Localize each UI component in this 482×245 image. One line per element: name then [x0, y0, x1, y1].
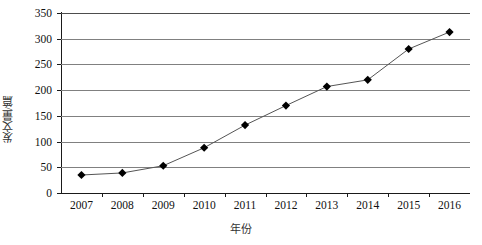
y-tick-label: 50: [41, 161, 53, 173]
y-axis-title: 发文量/篇: [0, 60, 18, 180]
y-tick-label: 0: [46, 187, 52, 199]
x-tick-mark: [184, 193, 185, 197]
x-tick-label: 2008: [111, 199, 134, 211]
data-point-marker: [159, 162, 167, 170]
x-tick-label: 2012: [274, 199, 297, 211]
y-tick-label: 300: [35, 33, 52, 45]
x-tick-label: 2007: [70, 199, 93, 211]
x-tick-label: 2010: [193, 199, 216, 211]
x-axis-title: 年份: [0, 220, 482, 236]
series-line: [81, 32, 449, 175]
x-tick-mark: [225, 193, 226, 197]
x-tick-label: 2009: [152, 199, 175, 211]
y-tick-mark: [57, 193, 61, 194]
data-point-marker: [323, 82, 331, 90]
y-axis-title-text: 发文量/篇: [3, 96, 15, 143]
y-tick-label: 150: [35, 110, 52, 122]
y-tick-label: 100: [35, 136, 52, 148]
x-tick-label: 2014: [356, 199, 379, 211]
x-tick-label: 2016: [438, 199, 461, 211]
x-tick-mark: [306, 193, 307, 197]
data-point-marker: [118, 169, 126, 177]
y-tick-label: 200: [35, 84, 52, 96]
x-tick-mark: [266, 193, 267, 197]
line-chart: 发文量/篇 050100150200250300350 200720082009…: [0, 0, 482, 245]
plot-area: [61, 13, 470, 193]
data-point-marker: [445, 28, 453, 36]
y-tick-label: 250: [35, 58, 52, 70]
data-point-marker: [200, 144, 208, 152]
data-point-marker: [77, 171, 85, 179]
x-axis-tick-labels: 2007200820092010201120122013201420152016: [61, 199, 470, 215]
data-point-marker: [241, 121, 249, 129]
data-point-marker: [364, 76, 372, 84]
y-axis-tick-labels: 050100150200250300350: [20, 13, 56, 193]
data-point-marker: [282, 101, 290, 109]
data-series: [61, 13, 470, 193]
y-tick-label: 350: [35, 7, 52, 19]
x-tick-mark: [347, 193, 348, 197]
x-tick-mark: [102, 193, 103, 197]
data-point-marker: [405, 45, 413, 53]
x-tick-mark: [143, 193, 144, 197]
x-tick-label: 2011: [234, 199, 257, 211]
x-axis-title-text: 年份: [230, 223, 252, 235]
x-tick-label: 2013: [315, 199, 338, 211]
x-tick-mark: [388, 193, 389, 197]
x-tick-mark: [429, 193, 430, 197]
x-tick-label: 2015: [397, 199, 420, 211]
